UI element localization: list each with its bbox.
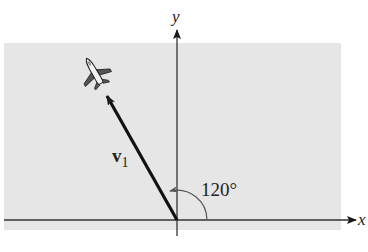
vector-subscript: 1 <box>122 155 129 170</box>
y-axis-label: y <box>170 7 180 26</box>
vector-diagram: y x 120° v1 <box>0 0 368 252</box>
shaded-plane <box>4 43 341 230</box>
x-axis-label: x <box>357 210 366 229</box>
angle-label: 120° <box>201 179 237 200</box>
vector-name: v <box>112 145 122 166</box>
